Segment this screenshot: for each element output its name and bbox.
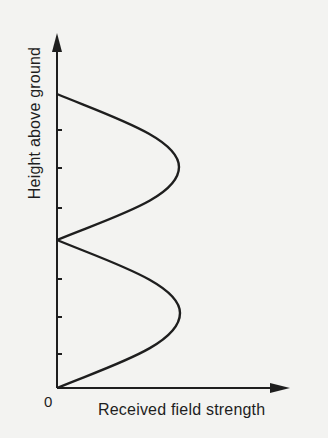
- y-axis-arrow-icon: [52, 33, 62, 52]
- lower-lobe-curve: [57, 240, 180, 388]
- origin-label: 0: [44, 393, 52, 410]
- x-axis-arrow-icon: [270, 383, 290, 393]
- y-axis-label: Height above ground: [26, 47, 44, 199]
- diagram-canvas: Height above ground 0 Received field str…: [0, 0, 328, 438]
- field-strength-diagram: [0, 0, 328, 438]
- upper-lobe-curve: [57, 94, 179, 240]
- x-axis-label: Received field strength: [98, 401, 265, 419]
